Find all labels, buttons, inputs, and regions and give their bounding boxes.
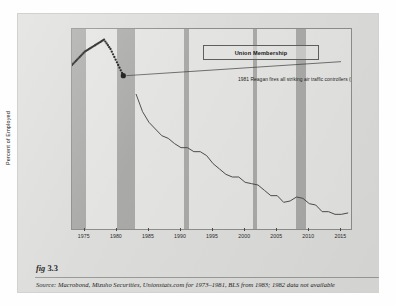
union-membership-line [136,94,348,214]
figure-card: Percent of Employed Union Membership 198… [18,14,378,292]
y-axis-tick-mark [71,129,72,130]
data-dot [118,67,120,69]
x-axis-tick-mark [180,228,181,231]
figure-label-number: 3.3 [47,264,57,273]
data-dot [104,40,106,42]
data-dot [113,56,115,58]
source-note: Source: Macrobond, Mizuho Securities, Un… [36,281,384,288]
x-axis-tick-label: 2015 [334,233,346,239]
data-dot [105,42,107,44]
x-axis-tick-mark [340,228,341,231]
x-axis-tick-label: 1975 [78,233,90,239]
y-axis-tick-mark [71,162,72,163]
data-dot [108,46,110,48]
x-axis: 197519801985199019952000200520102015 [71,228,352,250]
data-dot [117,64,119,66]
x-axis-tick-mark [148,228,149,231]
figure-label-prefix: fig [36,264,45,273]
y-axis-tick-mark [71,62,72,63]
x-axis-tick-label: 2000 [238,233,250,239]
data-dot [111,51,113,53]
y-axis-tick-mark [71,95,72,96]
union-membership-dots [71,39,123,75]
data-dot [103,39,105,41]
y-axis-tick-mark [71,29,72,30]
x-axis-tick-label: 1995 [206,233,218,239]
data-dot [107,44,109,46]
x-axis-tick-mark [116,228,117,231]
data-dot [112,53,114,55]
x-axis-tick-label: 1985 [142,233,154,239]
chart-figure: Percent of Employed Union Membership 198… [34,24,364,252]
figure-label: fig 3.3 [36,264,58,273]
x-axis-tick-mark [244,228,245,231]
x-axis-tick-mark [276,228,277,231]
patco-annotation-text: 1981 Reagan fires all striking air traff… [238,77,352,82]
x-axis-tick-mark [84,228,85,231]
annotation-leader-line [126,62,341,76]
y-axis-tick-mark [71,195,72,196]
data-dot [114,59,116,61]
x-axis-tick-label: 1980 [110,233,122,239]
data-dot [120,69,122,71]
x-axis-tick-label: 2010 [302,233,314,239]
x-axis-tick-label: 2005 [270,233,282,239]
legend-label: Union Membership [235,50,288,56]
data-dot [116,61,118,63]
x-axis-tick-mark [212,228,213,231]
patco-marker-dot [121,73,126,78]
x-axis-tick-mark [308,228,309,231]
legend-box: Union Membership [203,45,319,60]
data-dot [109,48,111,50]
caption-divider [35,277,379,278]
page-root: Percent of Employed Union Membership 198… [0,0,396,306]
y-axis-title: Percent of Employed [5,111,11,165]
plot-area: Union Membership 1981 Reagan fires all s… [71,28,352,230]
x-axis-tick-label: 1990 [174,233,186,239]
